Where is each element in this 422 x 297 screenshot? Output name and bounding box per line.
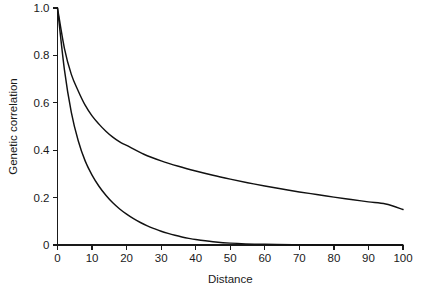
x-tick-label: 100 xyxy=(393,252,412,264)
y-tick-label: 0.8 xyxy=(34,49,50,61)
x-tick-label: 20 xyxy=(120,252,133,264)
x-tick-label: 70 xyxy=(293,252,306,264)
x-tick-label: 80 xyxy=(328,252,341,264)
x-tick-label: 40 xyxy=(189,252,202,264)
x-tick-label: 90 xyxy=(362,252,375,264)
y-tick-label: 0.2 xyxy=(34,192,50,204)
x-tick-label: 10 xyxy=(86,252,99,264)
y-tick-label: 0.6 xyxy=(34,97,50,109)
genetic-correlation-line-chart: 00.20.40.60.81.0 0102030405060708090100 … xyxy=(0,0,422,297)
y-tick-label: 1.0 xyxy=(34,2,50,14)
y-tick-label: 0.4 xyxy=(34,144,51,156)
x-tick-label: 50 xyxy=(224,252,237,264)
x-axis-title: Distance xyxy=(208,273,253,285)
chart-figure: 00.20.40.60.81.0 0102030405060708090100 … xyxy=(0,0,422,297)
y-tick-label: 0 xyxy=(43,239,49,251)
y-axis-title: Genetic correlation xyxy=(7,78,19,175)
x-tick-label: 30 xyxy=(155,252,168,264)
x-tick-label: 60 xyxy=(258,252,271,264)
x-tick-label: 0 xyxy=(54,252,60,264)
